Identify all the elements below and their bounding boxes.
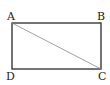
vertex-label-b: B [97,10,105,23]
diagonal-ac [12,23,101,69]
vertex-label-a: A [6,10,16,23]
rectangle-diagram: A B C D [0,0,110,85]
vertex-label-d: D [6,70,15,83]
vertex-label-c: C [98,70,106,83]
